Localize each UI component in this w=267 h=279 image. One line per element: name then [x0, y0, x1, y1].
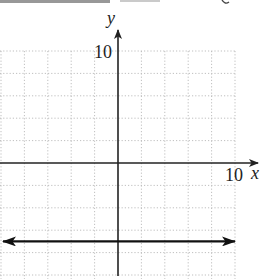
- coordinate-plane: y 10 10 x: [0, 0, 267, 279]
- header-text-fragment: [0, 0, 229, 3]
- x-tick-label-10: 10: [225, 165, 243, 185]
- x-axis-label: x: [250, 163, 259, 183]
- y-axis-label: y: [105, 8, 115, 28]
- y-tick-label-10: 10: [94, 42, 112, 62]
